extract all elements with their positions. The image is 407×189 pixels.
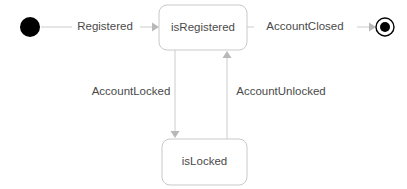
arrowhead-into-isregistered — [152, 23, 159, 32]
transition-account-closed[interactable]: AccountClosed — [247, 20, 376, 32]
final-state-inner-dot — [380, 22, 390, 32]
transition-registered-label: Registered — [77, 20, 133, 32]
transition-account-unlocked[interactable]: AccountUnlocked — [223, 51, 326, 139]
arrowhead-into-final-state — [369, 23, 376, 32]
state-diagram-canvas: Registered AccountClosed AccountLocked A… — [0, 0, 407, 189]
state-islocked-label: isLocked — [182, 155, 227, 167]
arrowhead-into-isregistered-from-islocked — [223, 51, 232, 58]
state-isregistered-label: isRegistered — [171, 21, 235, 33]
state-diagram-svg: Registered AccountClosed AccountLocked A… — [0, 0, 407, 189]
transition-account-closed-label: AccountClosed — [266, 20, 343, 32]
transition-account-unlocked-label: AccountUnlocked — [236, 85, 326, 97]
final-state-node[interactable] — [376, 18, 394, 36]
transition-account-locked[interactable]: AccountLocked — [92, 50, 180, 138]
state-node-islocked[interactable]: isLocked — [162, 139, 247, 185]
state-node-isregistered[interactable]: isRegistered — [159, 5, 247, 50]
initial-state-node[interactable] — [20, 17, 40, 37]
transition-account-locked-label: AccountLocked — [92, 85, 171, 97]
transition-registered[interactable]: Registered — [41, 20, 159, 32]
arrowhead-into-islocked — [171, 131, 180, 138]
